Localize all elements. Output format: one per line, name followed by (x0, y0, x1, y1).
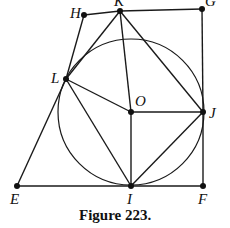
label-I: I (126, 191, 133, 207)
point-E (14, 183, 20, 189)
segment-H-K (84, 11, 120, 15)
point-L (63, 76, 69, 82)
label-J: J (209, 105, 217, 121)
segment-L-K (66, 11, 120, 79)
label-F: F (197, 191, 208, 207)
label-L: L (50, 70, 59, 86)
segment-K-J (120, 11, 203, 112)
point-H (81, 12, 87, 18)
segment-L-H (66, 15, 84, 79)
segments-layer (17, 9, 203, 186)
points-layer (14, 6, 206, 189)
segment-K-O (120, 11, 131, 112)
segment-E-L (17, 79, 66, 186)
segment-K-G (120, 9, 202, 11)
label-G: G (205, 0, 216, 9)
segment-G-J (202, 9, 203, 112)
point-O (128, 109, 134, 115)
point-F (200, 183, 206, 189)
label-H: H (69, 5, 82, 21)
label-O: O (135, 93, 146, 109)
geometry-figure: H K G L O J E I F Figure 223. (0, 0, 230, 228)
figure-caption: Figure 223. (79, 207, 151, 223)
label-K: K (113, 0, 125, 9)
point-I (128, 183, 134, 189)
point-J (200, 109, 206, 115)
label-E: E (9, 191, 19, 207)
